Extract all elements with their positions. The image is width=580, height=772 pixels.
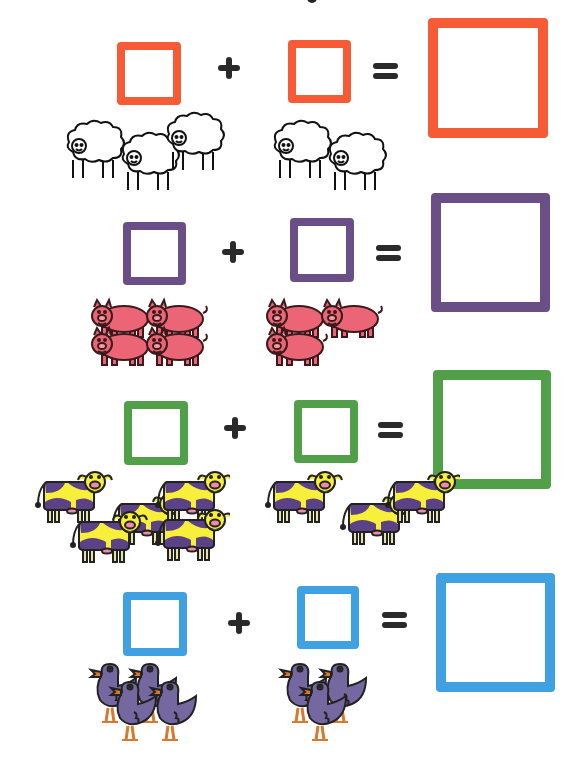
sheep-right-answer-box[interactable] <box>288 40 351 103</box>
duck-right-answer-box[interactable] <box>297 586 359 649</box>
pig-illustration <box>255 295 455 395</box>
sheep-icon <box>275 121 331 178</box>
pig-illustration <box>80 295 280 395</box>
cow-group-left <box>30 468 230 572</box>
pig-icon <box>267 300 327 337</box>
sheep-icon <box>68 121 124 178</box>
sheep-plus-sign <box>218 57 240 79</box>
sheep-group-left <box>55 108 255 212</box>
pig-icon <box>92 300 152 337</box>
cow-plus-sign <box>224 417 246 439</box>
duck-left-answer-box[interactable] <box>123 592 187 656</box>
pig-equals-sign <box>376 245 401 261</box>
sheep-left-answer-box[interactable] <box>117 42 181 105</box>
pig-icon <box>147 300 207 337</box>
duck-group-left <box>80 660 280 764</box>
cow-left-answer-box[interactable] <box>124 401 188 465</box>
cow-equals-sign <box>378 422 403 438</box>
pig-icon <box>322 300 382 337</box>
sheep-illustration <box>55 108 255 208</box>
duck-group-right <box>270 660 470 764</box>
pig-group-right <box>255 295 455 399</box>
sheep-equals-sign <box>373 63 398 79</box>
cow-right-answer-box[interactable] <box>294 400 358 463</box>
pig-plus-sign <box>222 241 244 263</box>
cropped-title-glyph <box>307 0 317 3</box>
pig-left-answer-box[interactable] <box>123 222 186 285</box>
cow-icon <box>386 472 460 522</box>
cow-illustration <box>30 468 230 568</box>
duck-plus-sign <box>228 612 250 634</box>
sheep-icon <box>330 133 386 190</box>
duck-illustration <box>270 660 470 760</box>
pig-group-left <box>80 295 280 399</box>
cow-group-right <box>260 468 460 572</box>
duck-illustration <box>80 660 280 760</box>
duck-icon <box>151 682 196 740</box>
cow-illustration <box>260 468 460 568</box>
cow-icon <box>266 472 342 522</box>
duck-equals-sign <box>382 612 407 628</box>
pig-right-answer-box[interactable] <box>290 218 354 282</box>
cow-icon <box>36 472 112 522</box>
